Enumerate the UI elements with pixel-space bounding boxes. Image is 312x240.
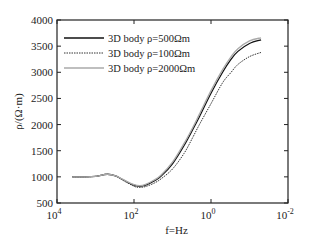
y-tick-label: 3000 (31, 66, 54, 78)
y-tick-label: 500 (37, 197, 54, 209)
y-tick-label: 3500 (31, 40, 54, 52)
x-tick-label: 100 (201, 207, 216, 221)
y-tick-label: 4000 (31, 14, 54, 26)
y-axis-title: ρ/(Ω·m) (12, 93, 25, 130)
x-tick-label: 10-2 (276, 207, 294, 221)
y-tick-label: 2000 (31, 119, 54, 131)
y-tick-label: 1000 (31, 171, 54, 183)
legend-label: 3D body ρ=100Ωm (108, 48, 190, 59)
legend-label: 3D body ρ=500Ωm (108, 33, 190, 44)
chart-root: 5001000150020002500300035004000104102100… (0, 0, 312, 240)
series-line-0 (72, 40, 261, 186)
plot-area: 5001000150020002500300035004000104102100… (12, 14, 294, 236)
y-tick-label: 1500 (31, 145, 54, 157)
series-line-2 (72, 38, 261, 186)
x-tick-label: 104 (47, 207, 62, 221)
y-tick-label: 2500 (31, 92, 54, 104)
x-tick-label: 102 (124, 207, 139, 221)
x-axis-title: f=Hz (165, 224, 188, 236)
legend-label: 3D body ρ=2000Ωm (108, 63, 195, 74)
